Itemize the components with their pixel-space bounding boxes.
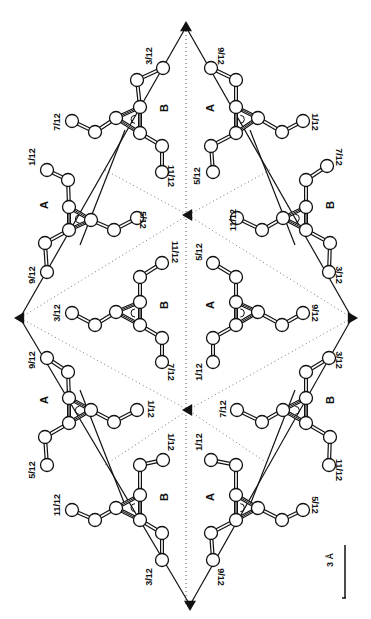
atom: [300, 366, 313, 379]
atom: [205, 527, 218, 540]
atom: [134, 514, 147, 527]
atom: [300, 224, 313, 237]
atom: [276, 514, 289, 527]
molecule-bottom-right-A: A: [204, 454, 310, 567]
molecule-low-right-B: B: [231, 352, 337, 472]
atom: [157, 454, 170, 467]
atom: [134, 459, 147, 472]
molecule-bottom-left-B: B: [66, 454, 171, 567]
molecule-top-left-B: B: [66, 62, 171, 179]
height-label: 1/12: [310, 113, 320, 131]
molecule-center-A: A: [204, 257, 310, 369]
atom: [252, 306, 265, 319]
height-label: 9/12: [27, 351, 37, 369]
atom: [230, 489, 243, 502]
atom: [323, 266, 336, 279]
atom: [85, 214, 98, 227]
height-label: 11/12: [334, 459, 344, 481]
atom: [323, 352, 336, 365]
atom: [89, 319, 102, 332]
atom: [62, 366, 75, 379]
atom: [131, 74, 144, 87]
atom: [131, 404, 144, 417]
height-label: 9/12: [216, 568, 226, 586]
height-label: 3/12: [144, 47, 154, 65]
height-label: 7/12: [334, 148, 344, 166]
threefold-axis-icon: [184, 601, 196, 611]
threefold-axis-icon: [180, 21, 192, 31]
atom: [134, 296, 147, 309]
height-label: 3/12: [334, 266, 344, 284]
ring-arc: [240, 309, 244, 317]
height-label: 3/12: [334, 351, 344, 369]
height-label: 9/12: [27, 266, 37, 284]
atom: [276, 126, 289, 139]
atom: [276, 319, 289, 332]
atom: [207, 166, 220, 179]
molecule-mid-left-A: A: [38, 164, 144, 279]
atom: [156, 332, 169, 345]
molecule-label: A: [38, 396, 50, 404]
height-label: 1/12: [146, 400, 156, 418]
ring-arc: [131, 309, 135, 317]
molecule-label: A: [204, 301, 216, 309]
atom: [110, 112, 123, 125]
height-label: 1/12: [27, 148, 37, 166]
atom: [157, 62, 170, 75]
atom: [252, 112, 265, 125]
atom: [41, 352, 54, 365]
molecule-label: B: [158, 104, 170, 112]
threefold-axis-icon: [348, 312, 358, 324]
height-label: 1/12: [194, 433, 204, 451]
atom: [110, 502, 123, 515]
atom: [323, 459, 336, 472]
atom: [230, 127, 243, 140]
height-label: 3/12: [52, 304, 62, 322]
scale-bar: 3 Å: [325, 545, 346, 598]
molecule-label: A: [204, 493, 216, 501]
atom: [207, 356, 220, 369]
atom: [134, 489, 147, 502]
height-label: 11/12: [228, 209, 238, 231]
atom: [205, 454, 218, 467]
atom: [230, 101, 243, 114]
atom: [89, 126, 102, 139]
atom: [300, 392, 313, 405]
atom: [207, 332, 220, 345]
atom: [297, 307, 310, 320]
atom: [230, 459, 243, 472]
height-label: 7/12: [218, 400, 228, 418]
atom: [156, 527, 169, 540]
molecule-label: A: [38, 201, 50, 209]
atom: [85, 404, 98, 417]
scale-bar-label: 3 Å: [325, 553, 335, 568]
threefold-axis-icon: [182, 209, 192, 221]
atom: [231, 404, 244, 417]
molecules: BAABBAABBA: [38, 62, 337, 567]
atom: [63, 201, 76, 214]
atom: [230, 271, 243, 284]
height-label: 11/12: [170, 241, 180, 263]
atom: [300, 417, 313, 430]
atom: [230, 319, 243, 332]
height-label: 11/12: [52, 494, 62, 516]
atom: [134, 127, 147, 140]
ring-arc: [75, 406, 79, 414]
molecule-low-left-A: A: [38, 352, 144, 472]
height-label: 7/12: [52, 113, 62, 131]
atom: [110, 306, 123, 319]
atom: [324, 237, 337, 250]
atom: [252, 502, 265, 515]
molecule-label: A: [204, 104, 216, 112]
atom: [66, 115, 79, 128]
atom: [277, 404, 290, 417]
atom: [207, 257, 220, 270]
diagram-canvas: BAABBAABBA 3/129/127/121/121/127/1211/12…: [0, 0, 371, 619]
atom: [41, 266, 54, 279]
threefold-axis-icon: [14, 312, 24, 324]
atom: [134, 271, 147, 284]
atom: [207, 554, 220, 567]
atom: [66, 307, 79, 320]
atom: [62, 174, 75, 187]
height-label: 9/12: [310, 304, 320, 322]
